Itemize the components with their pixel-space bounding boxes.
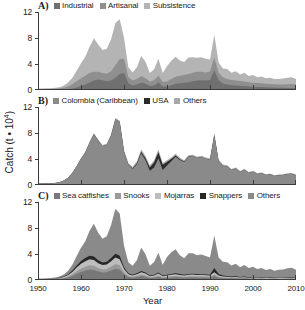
legend-swatch-icon: [155, 193, 161, 199]
y-tick-label: 8: [27, 34, 32, 43]
y-tick-label: 12: [23, 198, 32, 207]
x-tick-mark: [253, 275, 254, 279]
panel-a-plot: [38, 12, 296, 90]
x-tick-mark: [295, 275, 296, 279]
legend-swatch-icon: [115, 193, 121, 199]
panel-c: 04812 C) Sea catfishesSnooksMojarrasSnap…: [0, 190, 305, 285]
panel-c-letter: C): [38, 191, 49, 201]
panel-b-y-ticklabels: 04812: [0, 95, 38, 190]
panel-c-plot: [38, 202, 296, 280]
x-tick-mark: [124, 85, 125, 89]
x-tick-mark: [253, 85, 254, 89]
legend-swatch-icon: [54, 3, 60, 9]
x-tick-mark: [81, 180, 82, 184]
legend-swatch-icon: [53, 98, 59, 104]
legend-swatch-icon: [174, 98, 180, 104]
legend-item-subsistence[interactable]: Subsistence: [144, 2, 195, 10]
x-tick-label: 1980: [159, 285, 176, 293]
y-tick-mark: [35, 89, 39, 90]
y-tick-mark: [35, 64, 39, 65]
panel-c-area-chart: [38, 202, 296, 280]
x-tick-mark: [295, 180, 296, 184]
x-tick-mark: [253, 180, 254, 184]
legend-label: Sea catfishes: [62, 192, 109, 200]
y-tick-mark: [35, 228, 39, 229]
y-tick-mark: [35, 133, 39, 134]
legend-item-others[interactable]: Others: [248, 192, 280, 200]
legend-label: Industrial: [62, 2, 93, 10]
x-tick-mark: [167, 180, 168, 184]
figure-root: Catch (t • 104) 04812 A) IndustrialArtis…: [0, 0, 305, 310]
x-tick-mark: [210, 180, 211, 184]
x-tick-label: 1990: [202, 285, 219, 293]
legend-swatch-icon: [144, 98, 150, 104]
legend-label: Snooks: [123, 192, 149, 200]
y-tick-mark: [35, 184, 39, 185]
legend-swatch-icon: [248, 193, 254, 199]
x-tick-mark: [124, 275, 125, 279]
x-tick-mark: [167, 275, 168, 279]
legend-swatch-icon: [200, 193, 206, 199]
x-tick-mark: [210, 275, 211, 279]
y-tick-label: 8: [27, 224, 32, 233]
panel-b-bottom-axis: [38, 184, 296, 185]
x-tick-mark: [38, 85, 39, 89]
y-tick-mark: [35, 107, 39, 108]
x-tick-label: 1970: [116, 285, 133, 293]
x-tick-mark: [81, 85, 82, 89]
legend-label: Subsistence: [153, 2, 195, 10]
legend-item-sea-catfishes[interactable]: Sea catfishes: [54, 192, 109, 200]
y-tick-mark: [35, 254, 39, 255]
legend-item-industrial[interactable]: Industrial: [54, 2, 94, 10]
y-tick-label: 4: [27, 250, 32, 259]
y-tick-label: 4: [27, 155, 32, 164]
x-tick-label: 2010: [288, 285, 305, 293]
legend-item-snooks[interactable]: Snooks: [115, 192, 150, 200]
x-tick-label: 1960: [73, 285, 90, 293]
panel-a-left-axis: [38, 12, 39, 90]
area-series-colombia-caribbean: [38, 119, 296, 185]
legend-item-others[interactable]: Others: [174, 97, 206, 105]
legend-swatch-icon: [54, 193, 60, 199]
panel-b-letter: B): [38, 96, 48, 106]
x-tick-mark: [38, 180, 39, 184]
legend-item-colombia-caribbean[interactable]: Colombia (Caribbean): [53, 97, 138, 105]
y-tick-mark: [35, 202, 39, 203]
y-tick-mark: [35, 159, 39, 160]
legend-item-usa[interactable]: USA: [144, 97, 169, 105]
x-tick-mark: [167, 85, 168, 89]
legend-swatch-icon: [144, 3, 150, 9]
x-tick-mark: [124, 180, 125, 184]
x-tick-label: 1950: [30, 285, 47, 293]
panel-a-letter: A): [38, 1, 49, 11]
x-tick-mark: [81, 275, 82, 279]
panel-b-left-axis: [38, 107, 39, 185]
panel-b-legend: B) Colombia (Caribbean)USAOthers: [38, 95, 212, 107]
y-tick-mark: [35, 279, 39, 280]
y-tick-label: 4: [27, 60, 32, 69]
y-tick-label: 12: [23, 8, 32, 17]
legend-label: Mojarras: [164, 192, 194, 200]
legend-label: Others: [183, 97, 206, 105]
panel-a-legend: A) IndustrialArtisanalSubsistence: [38, 0, 201, 12]
legend-item-mojarras[interactable]: Mojarras: [155, 192, 194, 200]
legend-item-snappers[interactable]: Snappers: [200, 192, 242, 200]
legend-label: Others: [257, 192, 280, 200]
x-tick-mark: [210, 85, 211, 89]
panel-b-plot: [38, 107, 296, 185]
panel-c-bottom-axis: [38, 279, 296, 280]
panel-c-left-axis: [38, 202, 39, 280]
y-tick-label: 12: [23, 103, 32, 112]
y-tick-mark: [35, 12, 39, 13]
y-tick-mark: [35, 38, 39, 39]
x-tick-label: 2000: [245, 285, 262, 293]
x-tick-mark: [295, 85, 296, 89]
panel-a-y-ticklabels: 04812: [0, 0, 38, 95]
panel-b-area-chart: [38, 107, 296, 185]
legend-label: Colombia (Caribbean): [62, 97, 138, 105]
legend-label: Snappers: [209, 192, 242, 200]
y-tick-label: 0: [27, 86, 32, 95]
legend-item-artisanal[interactable]: Artisanal: [100, 2, 139, 10]
y-tick-label: 8: [27, 129, 32, 138]
x-axis-title: Year: [0, 296, 305, 306]
